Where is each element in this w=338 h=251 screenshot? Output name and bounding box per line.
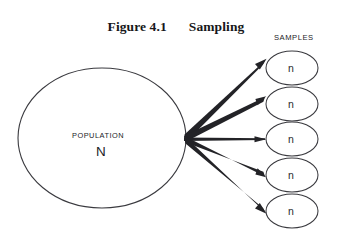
population-label: POPULATION bbox=[72, 131, 124, 140]
arrow-to-sample-3 bbox=[184, 137, 265, 141]
sample-symbol-2: n bbox=[288, 98, 294, 110]
sample-symbol-5: n bbox=[288, 205, 294, 217]
sample-symbol-4: n bbox=[288, 169, 294, 181]
arrow-head-sample-1 bbox=[255, 59, 267, 70]
sample-symbol-3: n bbox=[288, 133, 294, 145]
arrow-head-sample-3 bbox=[255, 136, 267, 142]
arrow-to-sample-5 bbox=[185, 136, 266, 213]
arrow-to-sample-4 bbox=[184, 136, 265, 177]
samples-heading: SAMPLES bbox=[274, 33, 314, 42]
arrow-head-sample-5 bbox=[255, 203, 267, 214]
population-symbol: N bbox=[96, 144, 106, 159]
sample-symbol-1: n bbox=[288, 62, 294, 74]
arrow-to-sample-2 bbox=[184, 97, 265, 142]
figure-container: Figure 4.1Sampling SAMPLES POPULATION N … bbox=[0, 0, 338, 251]
